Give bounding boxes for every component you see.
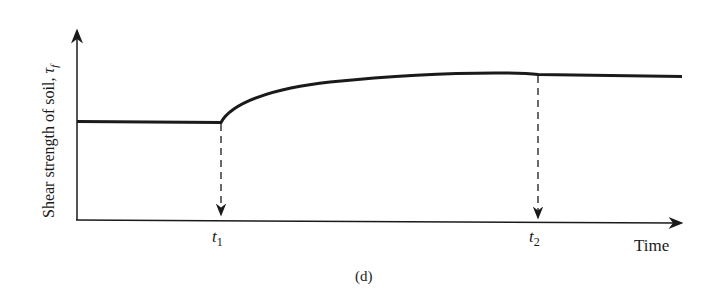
t1-label: t1 <box>212 227 223 250</box>
figure-caption: (d) <box>355 268 373 285</box>
y-axis-label: Shear strength of soil, τf <box>40 65 60 218</box>
shear-strength-curve <box>77 73 682 123</box>
x-axis <box>76 220 676 223</box>
x-axis-label: Time <box>634 236 669 256</box>
t2-label: t2 <box>529 227 540 250</box>
chart-canvas <box>0 0 716 308</box>
